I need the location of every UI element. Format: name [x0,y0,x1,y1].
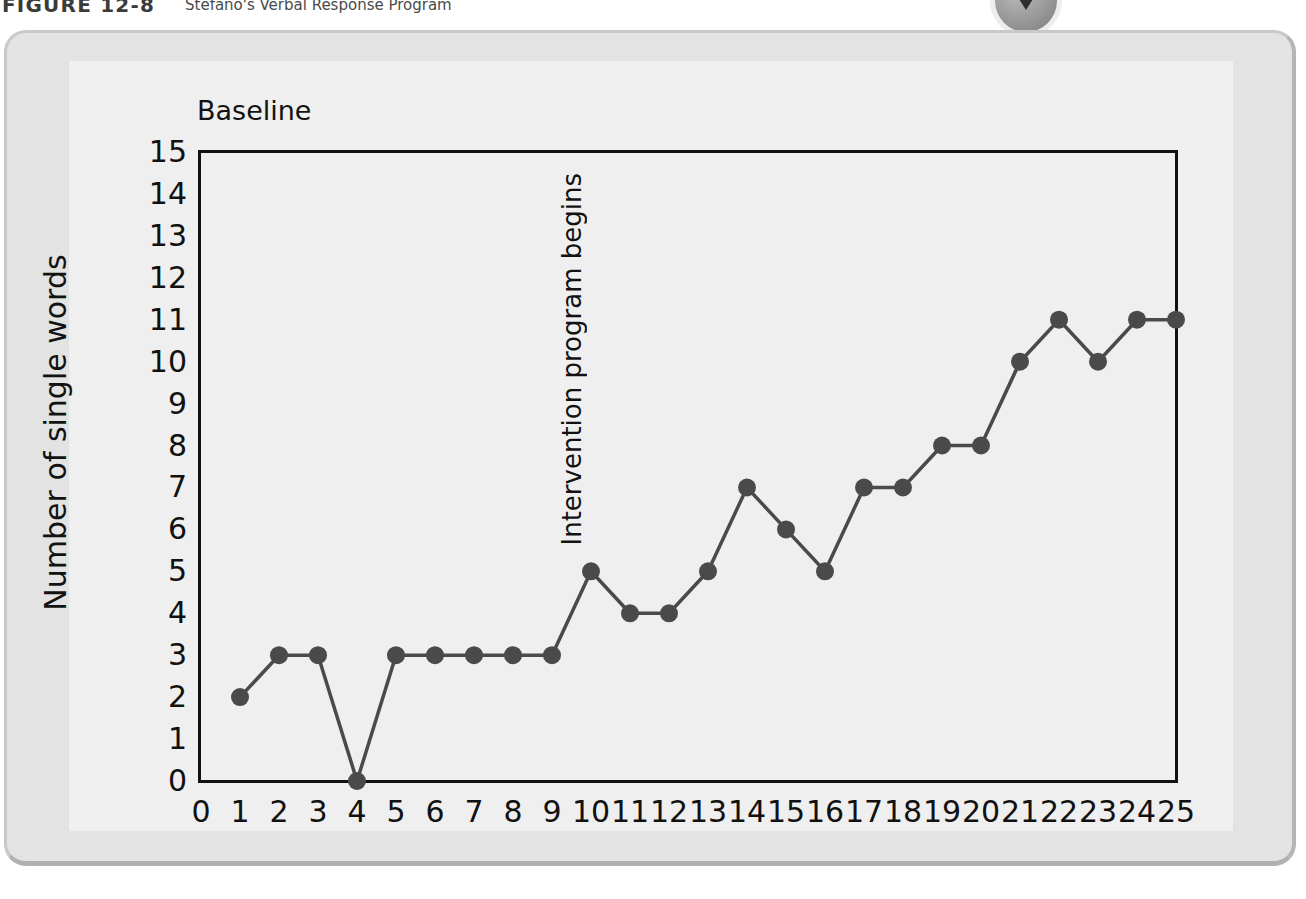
data-point [1050,311,1068,329]
figure-title: Stefano's Verbal Response Program [185,0,452,14]
data-point [972,437,990,455]
data-point [933,437,951,455]
figure-card: Number of single words Baseline Interven… [4,30,1296,866]
data-point [777,520,795,538]
figure-caption: FIGURE 12-8 Stefano's Verbal Response Pr… [0,0,1306,26]
data-point [231,688,249,706]
data-point [621,604,639,622]
data-point [309,646,327,664]
data-point [1167,311,1185,329]
data-point [582,562,600,580]
data-point [1128,311,1146,329]
series-line [240,320,1176,781]
data-point [660,604,678,622]
data-point [1011,353,1029,371]
series-points [231,311,1185,790]
data-point [270,646,288,664]
data-point [543,646,561,664]
data-point [348,772,366,790]
data-point [426,646,444,664]
data-point [504,646,522,664]
data-point [1089,353,1107,371]
data-point [387,646,405,664]
data-point [465,646,483,664]
data-point [816,562,834,580]
figure-number: FIGURE 12-8 [2,0,155,17]
triangle-glyph [1012,0,1040,10]
data-point [855,479,873,497]
data-point [894,479,912,497]
line-chart: Number of single words Baseline Interven… [7,33,1299,869]
play-triangle-icon[interactable] [995,0,1057,32]
series-layer [7,33,1299,869]
data-point [699,562,717,580]
data-point [738,479,756,497]
